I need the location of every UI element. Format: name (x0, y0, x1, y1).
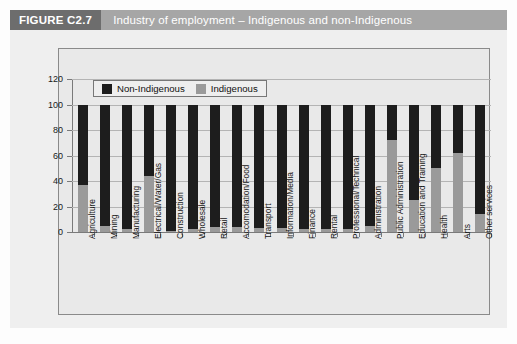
legend-label-non-indigenous: Non-Indigenous (117, 83, 185, 94)
x-axis-label-agriculture: Agriculture (87, 199, 97, 239)
legend-item-non-indigenous: Non-Indigenous (102, 83, 185, 94)
bar-segment-non-indigenous (453, 105, 463, 153)
bar-segment-non-indigenous (387, 105, 397, 141)
x-axis-label-construction: Construction (175, 192, 185, 239)
figure-header: FIGURE C2.7 Industry of employment – Ind… (10, 10, 507, 30)
y-axis-tick: 20 (67, 207, 72, 208)
x-axis-label-arts: Arts (462, 224, 472, 239)
x-axis-label-rental: Rental (329, 215, 339, 239)
figure-number: FIGURE C2.7 (10, 10, 101, 30)
y-axis-tick-label: 0 (58, 227, 63, 237)
x-axis-label-retail: Retail (219, 218, 229, 239)
bar-health (431, 105, 441, 233)
x-axis-label-finance: Finance (307, 209, 317, 239)
x-axis-label-transport: Transport (263, 203, 273, 239)
bar-segment-non-indigenous (321, 105, 331, 230)
bar-segment-non-indigenous (78, 105, 88, 185)
legend-swatch-indigenous (196, 84, 206, 94)
x-axis-label-education-and-training: Education and Training (417, 153, 427, 239)
y-axis-tick: 100 (67, 105, 72, 106)
x-axis-label-health: Health (439, 215, 449, 239)
figure-body: 020406080100120AgricultureMiningManufact… (10, 30, 507, 328)
bar-arts (453, 105, 463, 233)
x-axis-label-information-media: Information/Media (285, 172, 295, 239)
y-axis-tick: 80 (67, 130, 72, 131)
y-axis-tick-label: 80 (53, 125, 63, 135)
y-axis-tick-label: 20 (53, 202, 63, 212)
bar-segment-indigenous (453, 153, 463, 232)
bar-retail (210, 105, 220, 233)
bar-segment-non-indigenous (431, 105, 441, 169)
y-axis-tick: 40 (67, 181, 72, 182)
y-axis-tick: 0 (67, 232, 72, 233)
x-axis-label-wholesale: Wholesale (197, 200, 207, 239)
chart-legend: Non-Indigenous Indigenous (93, 80, 267, 97)
x-axis-label-electrical-water-gas: Electrical/Water/Gas (153, 163, 163, 239)
bar-segment-non-indigenous (210, 105, 220, 227)
x-axis-label-public-administration: Public Administration (395, 161, 405, 239)
figure-page: FIGURE C2.7 Industry of employment – Ind… (0, 0, 517, 344)
y-axis-tick-label: 100 (48, 100, 63, 110)
x-axis-label-professional-technical: Professional/Technical (351, 156, 361, 239)
x-axis-label-accomodation-food: Accomodation/Food (241, 165, 251, 240)
x-axis-label-mining: Mining (109, 214, 119, 239)
legend-item-indigenous: Indigenous (196, 83, 258, 94)
y-axis-tick: 60 (67, 156, 72, 157)
y-axis-tick-label: 40 (53, 176, 63, 186)
x-axis-label-other-services: Other services (484, 185, 494, 239)
y-axis-tick-label: 60 (53, 151, 63, 161)
legend-swatch-non-indigenous (102, 84, 112, 94)
bar-rental (321, 105, 331, 233)
x-axis-label-manufacturing: Manufacturing (131, 186, 141, 239)
y-axis-tick: 120 (67, 79, 72, 80)
y-axis-tick-label: 120 (48, 74, 63, 84)
figure-title: Industry of employment – Indigenous and … (101, 14, 412, 26)
bar-mining (100, 105, 110, 233)
bar-segment-non-indigenous (100, 105, 110, 226)
legend-label-indigenous: Indigenous (211, 83, 258, 94)
x-axis-label-administration: Administration (373, 186, 383, 239)
